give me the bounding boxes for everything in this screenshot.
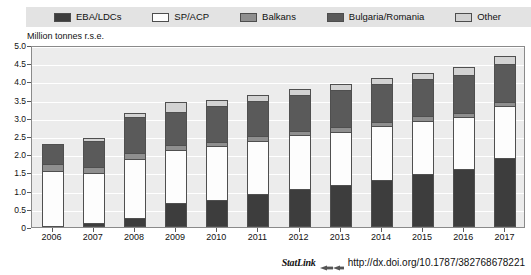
bar-segment: [83, 223, 105, 227]
bar-segment: [330, 132, 352, 187]
y-axis-tick-label: 4.0: [14, 78, 26, 87]
y-axis-tick-mark: [27, 119, 31, 120]
statlink-url[interactable]: http://dx.doi.org/10.1787/382768678221: [348, 257, 525, 268]
bar-segment: [330, 185, 352, 227]
bar-segment: [247, 194, 269, 227]
bar-segment: [42, 144, 64, 166]
bar-segment: [206, 146, 228, 201]
statlink-footer: StatLink http://dx.doi.org/10.1787/38276…: [0, 252, 531, 272]
gridline: [32, 83, 524, 84]
bar-stack: [494, 56, 516, 227]
bar-segment: [206, 106, 228, 142]
bar-segment: [453, 117, 475, 170]
y-axis-tick-label: 5.0: [14, 42, 26, 51]
y-axis-tick-mark: [27, 192, 31, 193]
bar-stack: [83, 138, 105, 227]
bar-stack: [371, 78, 393, 227]
y-axis-tick-label: 1.0: [14, 187, 26, 196]
bar-segment: [453, 169, 475, 227]
bar-stack: [289, 89, 311, 227]
y-axis-tick-label: 3.0: [14, 115, 26, 124]
gridline: [32, 156, 524, 157]
bar-segment: [412, 121, 434, 176]
bar-segment: [165, 150, 187, 205]
legend-swatch-icon: [240, 13, 257, 22]
legend-item: Balkans: [240, 12, 296, 22]
gridline: [32, 102, 524, 103]
bar-segment: [165, 112, 187, 147]
y-axis-tick-label: 0.5: [14, 206, 26, 215]
legend-swatch-icon: [327, 13, 344, 22]
bar-stack: [247, 95, 269, 227]
y-axis-tick-label: 2.5: [14, 133, 26, 142]
x-axis-tick-label: 2010: [206, 232, 226, 242]
x-axis-tick-label: 2013: [330, 232, 350, 242]
legend-item: Bulgaria/Romania: [327, 12, 425, 22]
chart-plot-wrapper: 00.51.01.52.02.53.03.54.04.55.0 20062007…: [0, 40, 531, 235]
x-axis-tick-label: 2009: [165, 232, 185, 242]
bar-stack: [42, 144, 64, 228]
legend-item-label: Other: [477, 12, 501, 22]
legend-item: EBA/LDCs: [54, 12, 121, 22]
bar-stack: [412, 73, 434, 227]
x-axis-tick-label: 2014: [371, 232, 391, 242]
y-axis-tick-mark: [27, 228, 31, 229]
bar-segment: [124, 159, 146, 219]
bar-segment: [42, 171, 64, 227]
gridline: [32, 174, 524, 175]
gridline: [32, 193, 524, 194]
y-axis-tick-label: 3.5: [14, 96, 26, 105]
y-axis-tick-mark: [27, 155, 31, 156]
bar-stack: [165, 102, 187, 227]
y-axis-tick-label: 0: [21, 224, 26, 233]
legend-item-label: SP/ACP: [174, 12, 209, 22]
bar-stack: [453, 67, 475, 227]
y-axis-tick-mark: [27, 64, 31, 65]
gridline: [32, 47, 524, 48]
x-axis-tick-label: 2012: [289, 232, 309, 242]
legend-item-label: Balkans: [262, 12, 296, 22]
y-axis-tick-mark: [27, 101, 31, 102]
x-axis-tick-label: 2015: [412, 232, 432, 242]
bar-segment: [165, 203, 187, 227]
y-axis-tick-label: 4.5: [14, 60, 26, 69]
chart-legend: EBA/LDCsSP/ACPBalkansBulgaria/RomaniaOth…: [26, 7, 531, 27]
y-axis-tick-label: 2.0: [14, 151, 26, 160]
legend-item-label: Bulgaria/Romania: [349, 12, 425, 22]
y-axis-tick-mark: [27, 46, 31, 47]
bar-segment: [412, 79, 434, 117]
y-axis-tick-labels: 00.51.01.52.02.53.03.54.04.55.0: [0, 46, 26, 228]
bar-segment: [412, 174, 434, 227]
y-axis-tick-mark: [27, 137, 31, 138]
bar-stack: [330, 84, 352, 227]
y-axis-tick-mark: [27, 173, 31, 174]
x-axis-tick-label: 2006: [42, 232, 62, 242]
bar-segment: [247, 141, 269, 196]
x-axis-tick-label: 2007: [83, 232, 103, 242]
x-axis-tick-label: 2017: [494, 232, 514, 242]
bar-segment: [453, 75, 475, 113]
y-axis-tick-mark: [27, 82, 31, 83]
bar-segment: [124, 218, 146, 227]
y-axis-tick-mark: [27, 210, 31, 211]
figure-title-clipped: [0, 0, 531, 6]
bar-segment: [289, 189, 311, 227]
legend-item-label: EBA/LDCs: [76, 12, 121, 22]
bar-segment: [247, 101, 269, 137]
gridline: [32, 138, 524, 139]
statlink-label: StatLink: [282, 257, 316, 268]
statlink-arrow-icon: [320, 258, 344, 266]
x-axis-tick-label: 2011: [248, 232, 267, 242]
legend-item: Other: [455, 12, 501, 22]
gridline: [32, 211, 524, 212]
bar-segment: [371, 126, 393, 181]
bar-segment: [494, 158, 516, 227]
bar-segment: [494, 64, 516, 102]
x-axis-tick-label: 2008: [124, 232, 144, 242]
chart-plot-area: [31, 46, 525, 228]
bar-segment: [83, 173, 105, 224]
bar-segment: [330, 90, 352, 128]
y-axis-tick-label: 1.5: [14, 169, 26, 178]
gridline: [32, 120, 524, 121]
legend-swatch-icon: [152, 13, 169, 22]
